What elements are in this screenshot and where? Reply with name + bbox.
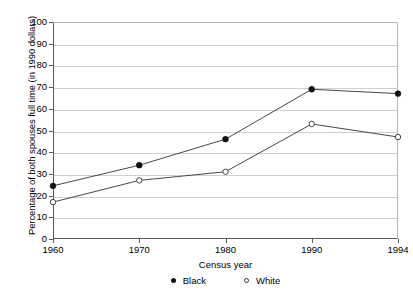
y-axis-tick-label: 20 bbox=[7, 191, 47, 201]
y-axis-tick-label: 10 bbox=[7, 212, 47, 222]
gridline bbox=[54, 110, 397, 111]
x-axis-tick-label: 1960 bbox=[23, 245, 83, 255]
y-axis-tick-label: 0 bbox=[7, 234, 47, 244]
y-axis-tick-label: 90 bbox=[7, 39, 47, 49]
x-axis-tick-label: 1990 bbox=[282, 245, 342, 255]
y-axis-tick bbox=[49, 217, 53, 218]
y-axis-tick bbox=[49, 87, 53, 88]
open-circle-icon bbox=[244, 278, 249, 283]
gridline bbox=[54, 153, 397, 154]
x-axis-tick bbox=[53, 239, 54, 243]
gridline bbox=[54, 132, 397, 133]
y-axis-tick bbox=[49, 109, 53, 110]
x-axis-tick-label: 1970 bbox=[109, 245, 169, 255]
gridline bbox=[54, 218, 397, 219]
x-axis-tick bbox=[139, 239, 140, 243]
y-axis-tick bbox=[49, 196, 53, 197]
y-axis-tick bbox=[49, 174, 53, 175]
x-axis-tick bbox=[226, 239, 227, 243]
x-axis-tick-label: 1994 bbox=[368, 245, 413, 255]
x-axis-tick bbox=[398, 239, 399, 243]
y-axis-tick bbox=[49, 65, 53, 66]
x-axis-tick bbox=[312, 239, 313, 243]
x-axis-title: Census year bbox=[53, 259, 398, 270]
y-axis-tick-label: 80 bbox=[7, 60, 47, 70]
legend-label-white: White bbox=[256, 275, 280, 286]
plot-area bbox=[53, 22, 398, 239]
y-axis-tick-label: 40 bbox=[7, 147, 47, 157]
y-axis-tick-label: 60 bbox=[7, 104, 47, 114]
chart-legend: Black White bbox=[53, 275, 398, 286]
y-axis-tick-label: 100 bbox=[7, 17, 47, 27]
y-axis-tick bbox=[49, 131, 53, 132]
x-axis-tick-label: 1980 bbox=[196, 245, 256, 255]
chart-figure: Percentage of both spouses full time (in… bbox=[0, 0, 413, 297]
gridline bbox=[54, 45, 397, 46]
y-axis-tick-label: 70 bbox=[7, 82, 47, 92]
y-axis-tick bbox=[49, 44, 53, 45]
gridline bbox=[54, 66, 397, 67]
legend-label-black: Black bbox=[183, 275, 206, 286]
y-axis-tick-label: 30 bbox=[7, 169, 47, 179]
gridline bbox=[54, 197, 397, 198]
filled-circle-icon bbox=[171, 278, 176, 283]
legend-item-white[interactable]: White bbox=[244, 275, 280, 286]
gridline bbox=[54, 88, 397, 89]
y-axis-tick-label: 50 bbox=[7, 126, 47, 136]
gridline bbox=[54, 175, 397, 176]
legend-item-black[interactable]: Black bbox=[171, 275, 206, 286]
y-axis-tick bbox=[49, 22, 53, 23]
y-axis-tick bbox=[49, 152, 53, 153]
